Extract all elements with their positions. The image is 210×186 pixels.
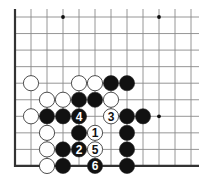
- move-number-label: 6: [92, 159, 99, 173]
- white-stone: [39, 92, 54, 107]
- black-stone: [87, 92, 102, 107]
- white-stone: [23, 109, 38, 124]
- white-stone: [39, 142, 54, 157]
- white-stone: [39, 158, 54, 173]
- black-stone-move-4: 4: [71, 109, 86, 124]
- black-stone: [55, 109, 70, 124]
- move-number-label: 1: [92, 126, 99, 140]
- hoshi-point: [157, 15, 161, 19]
- go-board-diagram: 431256: [0, 0, 210, 186]
- black-stone: [55, 158, 70, 173]
- white-stone-move-5: 5: [87, 142, 102, 157]
- black-stone-move-2: 2: [71, 142, 86, 157]
- hoshi-point: [61, 15, 65, 19]
- move-number-label: 3: [108, 110, 115, 124]
- move-number-label: 4: [76, 110, 83, 124]
- white-stone: [71, 76, 86, 91]
- white-stone: [23, 76, 38, 91]
- black-stone: [119, 158, 134, 173]
- white-stone: [39, 125, 54, 140]
- black-stone-move-6: 6: [87, 158, 102, 173]
- black-stone: [119, 109, 134, 124]
- black-stone: [119, 76, 134, 91]
- white-stone-move-1: 1: [87, 125, 102, 140]
- stones-layer: 431256: [23, 76, 150, 174]
- white-stone: [103, 92, 118, 107]
- black-stone: [39, 109, 54, 124]
- black-stone: [71, 92, 86, 107]
- black-stone: [119, 142, 134, 157]
- white-stone: [55, 92, 70, 107]
- black-stone: [119, 125, 134, 140]
- move-number-label: 5: [92, 143, 99, 157]
- move-number-label: 2: [76, 143, 83, 157]
- white-stone: [87, 76, 102, 91]
- hoshi-point: [157, 114, 161, 118]
- black-stone: [103, 76, 118, 91]
- white-stone-move-3: 3: [103, 109, 118, 124]
- black-stone: [71, 125, 86, 140]
- black-stone: [135, 109, 150, 124]
- black-stone: [55, 142, 70, 157]
